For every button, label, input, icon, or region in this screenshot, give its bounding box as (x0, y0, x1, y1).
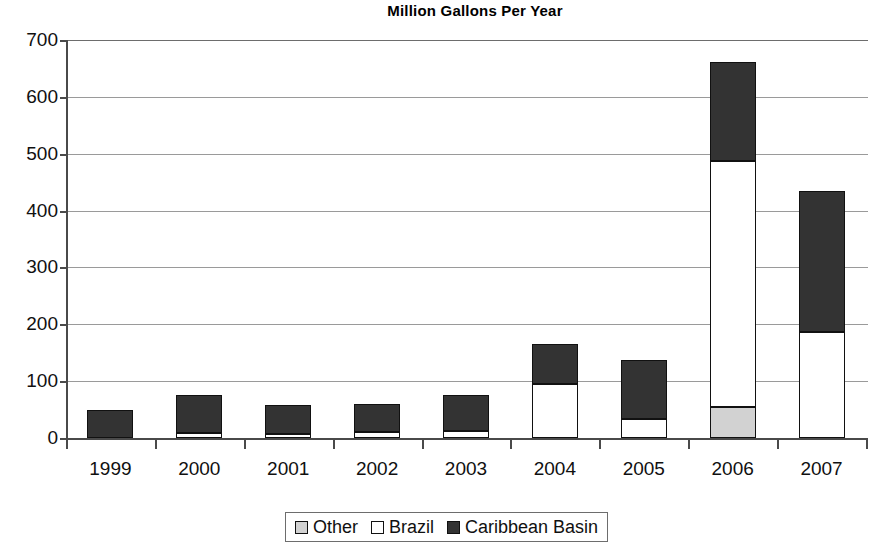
bar-segment-brazil-2002[interactable] (354, 432, 400, 438)
bar-segment-caribbean-2001[interactable] (265, 405, 311, 434)
x-tick-label-2007: 2007 (777, 458, 866, 480)
legend-entry-other[interactable]: Other (295, 518, 358, 536)
chart-legend: OtherBrazilCaribbean Basin (285, 512, 608, 542)
x-tick-mark (66, 440, 68, 449)
x-tick-label-2002: 2002 (333, 458, 422, 480)
x-axis-tick-labels: 199920002001200220032004200520062007 (66, 458, 866, 488)
bar-group-2005[interactable] (621, 40, 667, 438)
bar-segment-caribbean-2005[interactable] (621, 360, 667, 420)
legend-label: Brazil (389, 518, 434, 536)
bar-group-2001[interactable] (265, 40, 311, 438)
legend-label: Caribbean Basin (465, 518, 598, 536)
x-tick-mark (422, 440, 424, 449)
bar-segment-brazil-2006[interactable] (710, 161, 756, 407)
x-tick-label-2003: 2003 (422, 458, 511, 480)
light-gray-swatch (295, 521, 308, 534)
x-tick-label-2006: 2006 (688, 458, 777, 480)
x-tick-mark (155, 440, 157, 449)
bar-segment-brazil-2005[interactable] (621, 419, 667, 438)
x-tick-mark (510, 440, 512, 449)
bar-group-2003[interactable] (443, 40, 489, 438)
bar-segment-caribbean-2002[interactable] (354, 404, 400, 432)
bar-chart: Million Gallons Per Year 700600500400300… (0, 0, 876, 548)
x-tick-mark (688, 440, 690, 449)
bar-segment-brazil-2003[interactable] (443, 431, 489, 438)
bar-segment-caribbean-2006[interactable] (710, 62, 756, 161)
bar-group-2007[interactable] (799, 40, 845, 438)
x-tick-label-2000: 2000 (155, 458, 244, 480)
x-tick-mark (599, 440, 601, 449)
bar-segment-caribbean-2004[interactable] (532, 344, 578, 384)
bar-segment-other-2006[interactable] (710, 407, 756, 438)
x-tick-label-2005: 2005 (599, 458, 688, 480)
x-tick-mark (777, 440, 779, 449)
x-tick-label-2001: 2001 (244, 458, 333, 480)
bar-segment-caribbean-2003[interactable] (443, 395, 489, 431)
bar-group-2000[interactable] (176, 40, 222, 438)
bar-group-2002[interactable] (354, 40, 400, 438)
white-swatch (371, 521, 384, 534)
y-axis-tick-marks (0, 40, 66, 438)
bars-layer (66, 40, 866, 438)
bar-group-1999[interactable] (87, 40, 133, 438)
legend-entry-caribbean-basin[interactable]: Caribbean Basin (447, 518, 598, 536)
x-axis-tick-marks (66, 440, 866, 450)
x-tick-label-1999: 1999 (66, 458, 155, 480)
bar-segment-caribbean-2007[interactable] (799, 191, 845, 331)
bar-group-2006[interactable] (710, 40, 756, 438)
x-tick-mark (866, 440, 868, 449)
chart-title: Million Gallons Per Year (0, 2, 876, 19)
bar-segment-brazil-2007[interactable] (799, 332, 845, 438)
legend-label: Other (313, 518, 358, 536)
bar-segment-brazil-2004[interactable] (532, 384, 578, 438)
bar-segment-brazil-2000[interactable] (176, 433, 222, 438)
x-tick-mark (333, 440, 335, 449)
bar-segment-brazil-2001[interactable] (265, 434, 311, 438)
x-tick-mark (244, 440, 246, 449)
x-tick-label-2004: 2004 (510, 458, 599, 480)
dark-swatch (447, 521, 460, 534)
bar-segment-caribbean-2000[interactable] (176, 395, 222, 433)
bar-group-2004[interactable] (532, 40, 578, 438)
legend-entry-brazil[interactable]: Brazil (371, 518, 434, 536)
bar-segment-caribbean-1999[interactable] (87, 410, 133, 438)
